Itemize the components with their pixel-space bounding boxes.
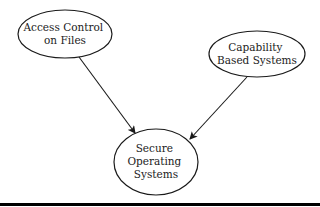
- edge-capability-to-secure: [190, 77, 247, 139]
- node-label-line: Capability: [228, 41, 282, 53]
- node-capability-based-systems: Capability Based Systems: [209, 31, 305, 77]
- diagram-canvas: Access Control on Files Capability Based…: [0, 0, 320, 207]
- node-label-line: Systems: [134, 168, 178, 180]
- node-label-line: Access Control: [22, 21, 103, 33]
- node-secure-operating-systems: Secure Operating Systems: [114, 129, 198, 195]
- node-label-line: on Files: [44, 34, 86, 46]
- node-access-control-on-files: Access Control on Files: [18, 10, 112, 58]
- bottom-rule: [0, 203, 320, 206]
- node-label-line: Operating: [127, 155, 181, 167]
- svg-text:Capability Based Systems: Capability Based Systems: [217, 41, 297, 66]
- edge-access-to-secure: [79, 57, 135, 133]
- node-label-line: Based Systems: [217, 54, 297, 66]
- svg-text:Access Control on Files: Access Control on Files: [22, 21, 106, 46]
- node-label-line: Secure: [136, 142, 173, 154]
- svg-text:Secure Operating S: Secure Operating Systems: [127, 142, 184, 180]
